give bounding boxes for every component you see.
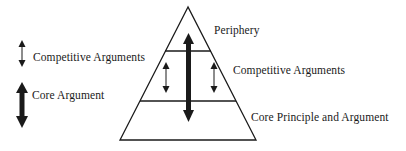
legend-label-competitive: Competitive Arguments <box>33 51 145 64</box>
core-argument-arrow-icon <box>183 33 194 122</box>
layer-label-competitive: Competitive Arguments <box>233 64 345 77</box>
pyramid-diagram <box>0 0 406 151</box>
competitive-arrow-left-icon <box>163 62 170 93</box>
legend-label-core: Core Argument <box>32 89 104 102</box>
layer-label-core: Core Principle and Argument <box>251 111 389 124</box>
competitive-arrow-right-icon <box>211 62 218 93</box>
legend-thick-double-arrow-icon <box>16 82 28 128</box>
legend-thin-double-arrow-icon <box>19 40 26 67</box>
layer-label-periphery: Periphery <box>214 24 260 37</box>
